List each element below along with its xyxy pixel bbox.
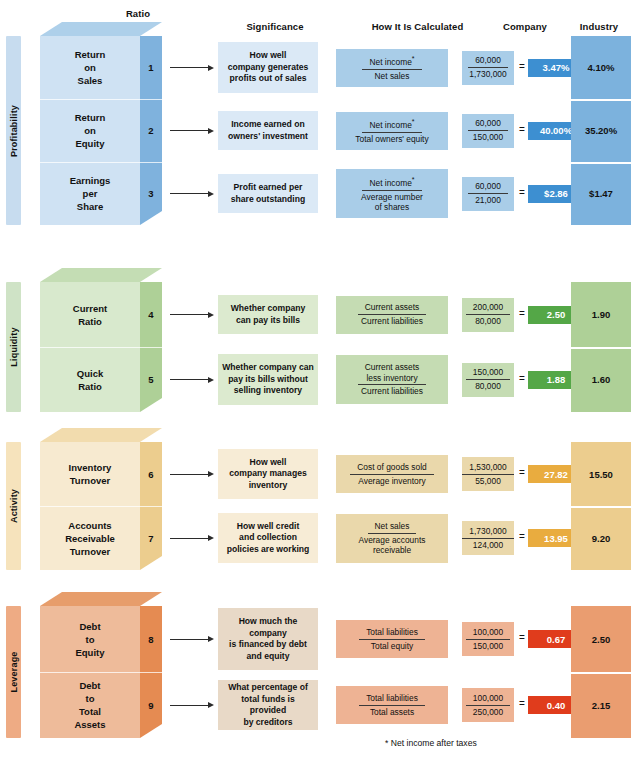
flow-arrow	[170, 126, 214, 135]
footnote: * Net income after taxes	[385, 738, 477, 748]
ratio-group-leverage: LeverageDebttoEquity8DebttoTotalAssets9H…	[0, 592, 637, 738]
significance-line: How well	[250, 50, 287, 62]
fraction: Total liabilitiesTotal equity	[359, 627, 425, 652]
industry-value-cell[interactable]: 1.90	[571, 282, 631, 347]
fraction-numerator: Net income*	[362, 116, 421, 133]
significance-box[interactable]: How wellcompany managesinventory	[218, 449, 318, 500]
ratio-name-cell[interactable]: ReturnonEquity	[40, 99, 140, 162]
fraction-denominator: Total owners' equity	[348, 133, 435, 145]
ratio-name-text: ReturnonEquity	[75, 111, 106, 150]
flow-arrow	[170, 635, 214, 644]
industry-value-cell[interactable]: 35.20%	[571, 99, 631, 162]
ratio-prism-profitability: ReturnonSales1ReturnonEquity2Earningsper…	[40, 22, 162, 225]
arrow-head-icon	[208, 636, 214, 642]
industry-value-cell[interactable]: 2.15	[571, 672, 631, 738]
formula-box[interactable]: Total liabilitiesTotal assets	[336, 686, 448, 724]
prism-body: InventoryTurnover6AccountsReceivableTurn…	[40, 442, 162, 570]
significance-box[interactable]: Income earned onowners' investment	[218, 111, 318, 150]
significance-line: How well	[250, 457, 287, 469]
numbers-box[interactable]: 60,000150,000	[462, 114, 514, 148]
significance-box[interactable]: How well creditand collectionpolicies ar…	[218, 513, 318, 564]
fraction-numerator: 60,000	[468, 181, 508, 194]
industry-column-leverage: 2.502.15	[571, 606, 631, 738]
industry-value-cell[interactable]: 2.50	[571, 606, 631, 672]
ratio-name-text: CurrentRatio	[73, 302, 107, 328]
fraction-numerator: 60,000	[468, 118, 508, 131]
numbers-box[interactable]: 60,00021,000	[462, 177, 514, 211]
industry-column-profitability: 4.10%35.20%$1.47	[571, 36, 631, 225]
flow-arrow	[170, 189, 214, 198]
arrow-head-icon	[208, 377, 214, 383]
ratio-name-cell[interactable]: ReturnonSales	[40, 36, 140, 99]
significance-box[interactable]: Whether company canpay its bills without…	[218, 354, 318, 405]
prism-body: DebttoEquity8DebttoTotalAssets9	[40, 606, 162, 738]
fraction-numerator: Total liabilities	[359, 627, 425, 640]
industry-value-cell[interactable]: 1.60	[571, 347, 631, 412]
ratio-name-text: QuickRatio	[77, 367, 103, 393]
fraction-denominator: 21,000	[468, 194, 508, 206]
prism-body: CurrentRatio4QuickRatio5	[40, 282, 162, 412]
equals-sign: =	[519, 373, 525, 384]
numbers-box[interactable]: 1,730,000124,000	[462, 521, 514, 555]
formula-box[interactable]: Net income*Net sales	[336, 49, 448, 87]
formula-box[interactable]: Cost of goods soldAverage inventory	[336, 455, 448, 493]
formula-box[interactable]: Net income*Total owners' equity	[336, 112, 448, 150]
significance-line: by creditors	[243, 717, 292, 729]
fraction-denominator: Total assets	[363, 706, 421, 718]
formula-box[interactable]: Net salesAverage accountsreceivable	[336, 514, 448, 563]
prism-top-face	[40, 428, 162, 442]
significance-box[interactable]: Profit earned pershare outstanding	[218, 174, 318, 213]
fraction-denominator: Average numberof shares	[354, 191, 430, 213]
ratio-prism-liquidity: CurrentRatio4QuickRatio5	[40, 268, 162, 412]
ratio-number-4: 4	[140, 282, 162, 347]
numbers-box[interactable]: 1,530,00055,000	[462, 457, 514, 491]
arrow-line	[170, 379, 208, 380]
fraction: 60,0001,730,000	[462, 55, 513, 80]
significance-line: What percentage of	[228, 682, 308, 694]
numbers-box[interactable]: 60,0001,730,000	[462, 51, 514, 85]
ratio-name-cell[interactable]: DebttoEquity	[40, 606, 140, 672]
arrow-head-icon	[208, 65, 214, 71]
industry-value-cell[interactable]: 9.20	[571, 506, 631, 570]
ratio-name-cell[interactable]: InventoryTurnover	[40, 442, 140, 506]
category-tab-liquidity: Liquidity	[6, 282, 21, 412]
industry-value-cell[interactable]: 4.10%	[571, 36, 631, 99]
fraction-numerator: 200,000	[466, 302, 510, 315]
significance-line: share outstanding	[231, 194, 306, 206]
significance-box[interactable]: What percentage oftotal funds is provide…	[218, 680, 318, 731]
formula-box[interactable]: Total liabilitiesTotal equity	[336, 620, 448, 658]
ratio-number-5: 5	[140, 347, 162, 412]
numbers-box[interactable]: 200,00080,000	[462, 298, 514, 332]
ratio-name-cell[interactable]: AccountsReceivableTurnover	[40, 506, 140, 570]
ratio-name-text: InventoryTurnover	[69, 461, 112, 487]
significance-box[interactable]: How wellcompany generatesprofits out of …	[218, 42, 318, 93]
fraction: 100,000250,000	[466, 693, 510, 718]
significance-box[interactable]: Whether companycan pay its bills	[218, 295, 318, 334]
category-tab-activity: Activity	[6, 442, 21, 570]
industry-value-cell[interactable]: $1.47	[571, 162, 631, 225]
numbers-box[interactable]: 150,00080,000	[462, 363, 514, 397]
fraction-numerator: Cost of goods sold	[350, 462, 433, 475]
flow-arrow	[170, 63, 214, 72]
ratio-name-text: DebttoEquity	[75, 620, 104, 659]
ratio-number-9: 9	[140, 672, 162, 738]
numbers-box[interactable]: 100,000250,000	[462, 688, 514, 722]
ratio-group-liquidity: LiquidityCurrentRatio4QuickRatio5Whether…	[0, 268, 637, 412]
significance-box[interactable]: How much thecompanyis financed by debtan…	[218, 608, 318, 670]
industry-value-cell[interactable]: 15.50	[571, 442, 631, 506]
ratio-name-cell[interactable]: DebttoTotalAssets	[40, 672, 140, 738]
formula-box[interactable]: Current assetsCurrent liabilities	[336, 296, 448, 334]
arrow-head-icon	[208, 535, 214, 541]
formula-box[interactable]: Net income*Average numberof shares	[336, 169, 448, 218]
ratio-name-cell[interactable]: QuickRatio	[40, 347, 140, 412]
numbers-box[interactable]: 100,000150,000	[462, 622, 514, 656]
significance-line: selling inventory	[234, 385, 302, 397]
ratio-name-cell[interactable]: CurrentRatio	[40, 282, 140, 347]
significance-line: and equity	[247, 651, 290, 663]
significance-line: total funds is provided	[222, 694, 314, 717]
ratio-name-cell[interactable]: EarningsperShare	[40, 162, 140, 225]
formula-box[interactable]: Current assetsless inventoryCurrent liab…	[336, 355, 448, 404]
arrow-line	[170, 193, 208, 194]
fraction-denominator: 1,730,000	[462, 68, 513, 80]
significance-line: How much the	[239, 616, 298, 628]
